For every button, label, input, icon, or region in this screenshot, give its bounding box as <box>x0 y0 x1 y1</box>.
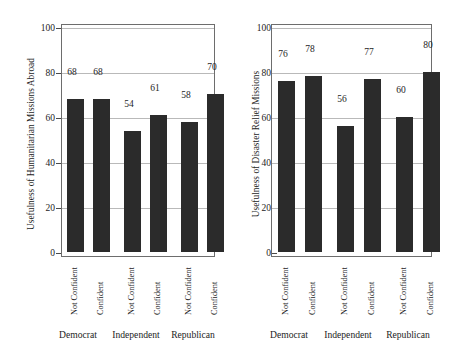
y-tick-label: 100 <box>29 23 55 33</box>
bar-democrat-confident <box>305 76 322 252</box>
group-label-democrat: Democrat <box>259 329 319 340</box>
group-label-democrat: Democrat <box>48 329 108 340</box>
x-tick-label-independent-confident: Confident <box>153 282 162 315</box>
bar-value-label: 80 <box>410 40 446 50</box>
bar-value-label: 54 <box>111 99 147 109</box>
x-tick-label-independent-confident: Confident <box>367 282 376 315</box>
x-tick-label-democrat-not-confident: Not Confident <box>281 267 290 315</box>
bar-value-label: 58 <box>168 90 204 100</box>
bar-republican-not-confident <box>181 122 198 252</box>
bar-democrat-not-confident <box>278 81 295 252</box>
y-tick-label: 80 <box>245 68 271 78</box>
gridline-100 <box>62 28 214 29</box>
figure: Usefulness of Humanitarian Missions Abro… <box>0 0 450 359</box>
y-tick-label: 40 <box>245 158 271 168</box>
y-tick-label: 40 <box>29 158 55 168</box>
bar-independent-not-confident <box>337 126 354 252</box>
y-tick-label: 0 <box>245 248 271 258</box>
y-tick-label: 60 <box>245 113 271 123</box>
bar-value-label: 77 <box>351 47 387 57</box>
y-tick-label: 100 <box>245 23 271 33</box>
y-axis-tick-labels: 100 80 60 40 20 0 <box>29 0 55 359</box>
group-label-republican: Republican <box>162 329 224 340</box>
bar-republican-confident <box>207 94 224 252</box>
bar-republican-not-confident <box>396 117 413 252</box>
bar-value-label: 56 <box>324 94 360 104</box>
panel-disaster-relief-missions: Usefulness of Disaster Relief Missions 1… <box>225 0 450 359</box>
plot-area <box>61 24 215 257</box>
bar-republican-confident <box>423 72 440 252</box>
bar-democrat-not-confident <box>67 99 84 252</box>
bar-democrat-confident <box>93 99 110 252</box>
x-tick-label-democrat-confident: Confident <box>308 282 317 315</box>
x-tick-label-democrat-confident: Confident <box>96 282 105 315</box>
bar-independent-confident <box>364 79 381 252</box>
group-label-republican: Republican <box>377 329 439 340</box>
gridline-80 <box>272 73 431 74</box>
group-label-independent: Independent <box>103 329 169 340</box>
bar-value-label: 78 <box>292 44 328 54</box>
x-tick-label-republican-confident: Confident <box>210 282 219 315</box>
x-tick-label-democrat-not-confident: Not Confident <box>70 267 79 315</box>
y-tick-label: 0 <box>29 248 55 258</box>
bar-independent-confident <box>150 115 167 252</box>
panel-humanitarian-missions: Usefulness of Humanitarian Missions Abro… <box>0 0 225 359</box>
x-tick-label-republican-not-confident: Not Confident <box>184 267 193 315</box>
y-tick-label: 80 <box>29 68 55 78</box>
y-tick-label: 20 <box>245 203 271 213</box>
x-tick-label-republican-confident: Confident <box>426 282 435 315</box>
x-tick-label-independent-not-confident: Not Confident <box>127 267 136 315</box>
x-tick-label-independent-not-confident: Not Confident <box>340 267 349 315</box>
x-tick-label-republican-not-confident: Not Confident <box>399 267 408 315</box>
gridline-60 <box>62 118 214 119</box>
gridline-100 <box>272 28 431 29</box>
group-label-independent: Independent <box>315 329 381 340</box>
bar-value-label: 68 <box>80 67 116 77</box>
bar-value-label: 60 <box>383 85 419 95</box>
y-tick-label: 60 <box>29 113 55 123</box>
y-tick-label: 20 <box>29 203 55 213</box>
bar-independent-not-confident <box>124 131 141 252</box>
